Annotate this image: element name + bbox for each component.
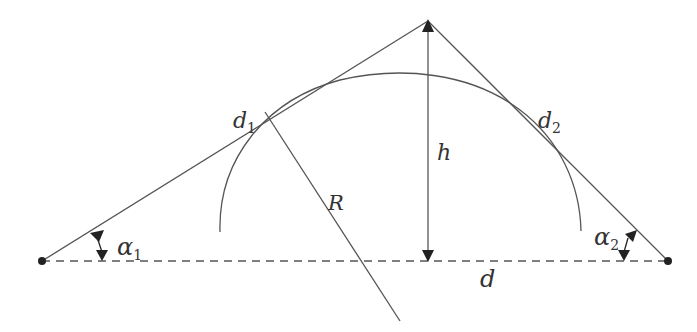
- alpha1-arrow-up-icon: [90, 230, 104, 242]
- circle-arc: [220, 73, 581, 232]
- label-d1: d1: [233, 108, 256, 136]
- left-endpoint: [38, 257, 46, 265]
- label-d2: d2: [538, 108, 561, 136]
- right-endpoint: [664, 257, 672, 265]
- label-alpha2: α2: [594, 223, 619, 253]
- label-d: d: [480, 265, 495, 293]
- radius-line: [265, 112, 400, 321]
- tangent-line-left: [42, 21, 428, 261]
- alpha1-arrow-down-icon: [96, 250, 108, 261]
- height-arrow-bottom-icon: [422, 250, 434, 262]
- alpha2-arc: [624, 238, 628, 252]
- label-h: h: [437, 140, 451, 165]
- label-alpha1: α1: [117, 233, 142, 263]
- alpha2-arrow-down-icon: [618, 250, 630, 261]
- tangent-line-right: [428, 21, 668, 261]
- label-R: R: [327, 191, 344, 215]
- diagram-canvas: d1 d2 h R d α1 α2: [0, 0, 697, 332]
